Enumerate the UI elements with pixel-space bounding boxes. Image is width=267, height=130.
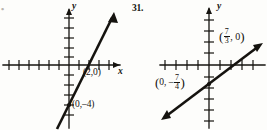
right-graph-panel: y ( 7 3 , 0 ) ( 0, – 7 4 ): [133, 0, 267, 130]
left-line-arrowhead-top: [108, 12, 118, 23]
left-x-axis-label: x: [118, 66, 123, 76]
right-coordinate-plane: [133, 0, 267, 130]
close-paren: ): [181, 76, 185, 89]
left-y-intercept-dot: [67, 103, 71, 107]
fraction-seven-fourths: 7 4: [174, 74, 180, 91]
left-x-intercept-label: (2,0): [83, 67, 101, 77]
fraction-numerator: 7: [174, 74, 180, 82]
left-axes: [3, 10, 120, 128]
label-tail: , 0: [230, 32, 240, 42]
right-y-axis-arrowhead: [206, 7, 212, 14]
right-y-axis-label: y: [217, 1, 221, 11]
left-graph-panel: •: [0, 0, 133, 130]
problem-number: 31.: [132, 3, 143, 13]
fraction-denominator: 4: [174, 82, 180, 91]
close-paren: ): [240, 30, 244, 43]
fraction-seven-thirds: 7 3: [224, 28, 230, 45]
fraction-numerator: 7: [224, 28, 230, 36]
left-coordinate-plane: [0, 0, 133, 130]
left-y-intercept-label: (0,–4): [72, 99, 94, 109]
open-paren: (: [219, 30, 223, 43]
label-lead: 0, –: [159, 78, 173, 88]
left-y-axis-label: y: [72, 1, 76, 11]
right-line-arrowhead-bottom: [161, 110, 171, 120]
right-y-intercept-dot: [207, 82, 211, 86]
right-y-intercept-label: ( 0, – 7 4 ): [155, 74, 185, 91]
textbook-figure-page: •: [0, 0, 267, 130]
fraction-denominator: 3: [224, 36, 230, 45]
right-x-intercept-label: ( 7 3 , 0 ): [219, 28, 245, 45]
